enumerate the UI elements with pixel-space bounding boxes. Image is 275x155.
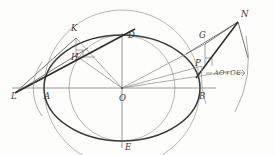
annotation-sum-label: AO+OE [213,69,241,77]
label-O: O [119,93,126,103]
label-K: K [70,23,78,33]
line-N-to-G [205,22,238,44]
radius-OH [78,57,122,88]
label-L: L [10,91,17,101]
label-D: D [127,30,135,40]
label-B: B [198,91,205,101]
radius-OK [76,38,122,88]
radius-OP [122,66,202,88]
label-H: H [70,52,79,62]
label-N: N [240,9,249,19]
label-E: E [124,142,132,152]
construction-drawing: L A O B D E K H G P N AO+OE [0,0,275,155]
label-A: A [43,91,50,101]
center-point-dot [121,87,123,89]
geometric-figure: L A O B D E K H G P N AO+OE [0,0,275,155]
label-G: G [199,30,206,40]
label-P: P [194,58,201,68]
